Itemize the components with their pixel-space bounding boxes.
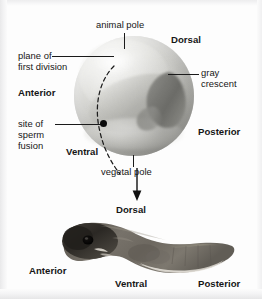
figure-container: animal pole Dorsal plane of first divisi… bbox=[0, 0, 262, 299]
label-dorsal-embryo: Dorsal bbox=[116, 205, 146, 216]
frog-egg-illustration bbox=[74, 36, 194, 158]
label-gray-crescent-line2: crescent bbox=[201, 79, 237, 90]
label-animal-pole: animal pole bbox=[96, 20, 144, 31]
label-ventral-egg: Ventral bbox=[66, 147, 98, 158]
label-gray-crescent-line1: gray bbox=[201, 68, 219, 79]
gray-crescent-leader bbox=[168, 74, 199, 75]
sperm-fusion-leader bbox=[55, 124, 103, 125]
label-sperm-fusion-line2: sperm bbox=[18, 130, 44, 141]
sperm-fusion-dot bbox=[100, 120, 107, 127]
label-plane-of-first-division-line1: plane of bbox=[18, 51, 52, 62]
plane-of-first-division-leader bbox=[52, 56, 114, 57]
label-anterior-embryo: Anterior bbox=[29, 266, 66, 277]
label-plane-of-first-division-line2: first division bbox=[18, 62, 67, 73]
tadpole-embryo-shape bbox=[48, 216, 238, 280]
label-ventral-embryo: Ventral bbox=[115, 279, 147, 290]
label-sperm-fusion-line3: fusion bbox=[18, 141, 43, 152]
label-dorsal-egg: Dorsal bbox=[171, 35, 201, 46]
label-sperm-fusion-line1: site of bbox=[18, 119, 43, 130]
label-anterior-egg: Anterior bbox=[18, 88, 55, 99]
label-posterior-egg: Posterior bbox=[198, 127, 240, 138]
embryo-panel: Dorsal bbox=[0, 196, 262, 299]
egg-panel: animal pole Dorsal plane of first divisi… bbox=[0, 0, 262, 196]
label-posterior-embryo: Posterior bbox=[198, 279, 240, 290]
tadpole-embryo-illustration bbox=[48, 216, 238, 280]
animal-pole-leader bbox=[124, 33, 125, 49]
